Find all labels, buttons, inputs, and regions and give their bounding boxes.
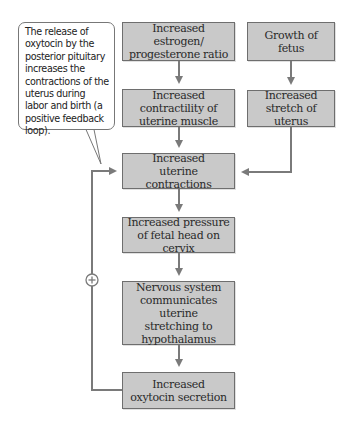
callout-tail — [86, 129, 101, 164]
feedback-line-lower — [92, 286, 122, 390]
callout-note: The release of oxytocin by the posterior… — [18, 22, 115, 130]
feedback-line-upper — [92, 171, 115, 274]
callout-text: The release of oxytocin by the posterior… — [25, 26, 109, 136]
arrow-stretch-to-contractions — [243, 127, 291, 172]
positive-feedback-icon — [86, 274, 98, 286]
